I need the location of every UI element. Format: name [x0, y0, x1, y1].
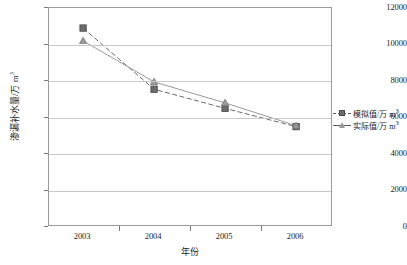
gridline [49, 81, 331, 82]
plot-area [48, 7, 332, 226]
gridline [49, 118, 331, 119]
legend-item[interactable]: 实际值/万 m3 [333, 119, 399, 131]
legend-triangle-marker-icon [333, 120, 351, 130]
y-axis-title: 渗漏补水量/万 m3 [8, 47, 21, 167]
y-axis-tick-label: 12000 [363, 3, 407, 12]
y-axis-tick-label: 2000 [363, 185, 407, 194]
legend-square-marker-icon [333, 108, 351, 118]
x-axis-tick-mark [261, 226, 262, 231]
y-axis-tick-mark [44, 226, 48, 227]
legend-label-text: 实际值/万 m [353, 122, 395, 131]
x-axis-title: 年份 [48, 245, 332, 258]
legend-label-superscript: 3 [395, 107, 398, 114]
x-axis-tick-mark [190, 226, 191, 231]
x-axis-tick-label: 2005 [204, 231, 244, 241]
legend-marker-shape [339, 110, 345, 116]
legend-label-superscript: 3 [395, 119, 398, 126]
x-axis-tick-mark [119, 226, 120, 231]
legend-marker-shape [339, 122, 345, 128]
x-axis-tick-label: 2003 [62, 231, 102, 241]
y-axis-tick-mark [44, 44, 48, 45]
y-axis-title-text: 渗漏补水量/万 m [10, 75, 20, 141]
y-axis-tick-label: 10000 [363, 39, 407, 48]
series-line-1 [83, 28, 296, 127]
x-axis-tick-label: 2006 [275, 231, 315, 241]
gridline [49, 45, 331, 46]
gridline [49, 191, 331, 192]
series-line-2 [83, 41, 296, 126]
y-axis-tick-mark [44, 117, 48, 118]
data-point-marker [79, 37, 86, 43]
data-point-marker [80, 25, 86, 31]
legend: 模拟值/万 m3实际值/万 m3 [333, 107, 399, 131]
x-axis-tick-label: 2004 [133, 231, 173, 241]
legend-item-label: 实际值/万 m3 [353, 117, 399, 133]
y-axis-tick-mark [44, 7, 48, 8]
y-axis-title-superscript: 3 [8, 72, 15, 75]
y-axis-tick-label: 8000 [363, 76, 407, 85]
y-axis-tick-label: 0 [363, 222, 407, 231]
data-point-marker [222, 105, 228, 111]
y-axis-tick-mark [44, 153, 48, 154]
data-point-marker [151, 86, 157, 92]
y-axis-tick-mark [44, 80, 48, 81]
y-axis-tick-mark [44, 190, 48, 191]
gridline [49, 154, 331, 155]
line-chart: 020004000600080001000012000 200320042005… [0, 0, 407, 265]
y-axis-tick-label: 4000 [363, 149, 407, 158]
